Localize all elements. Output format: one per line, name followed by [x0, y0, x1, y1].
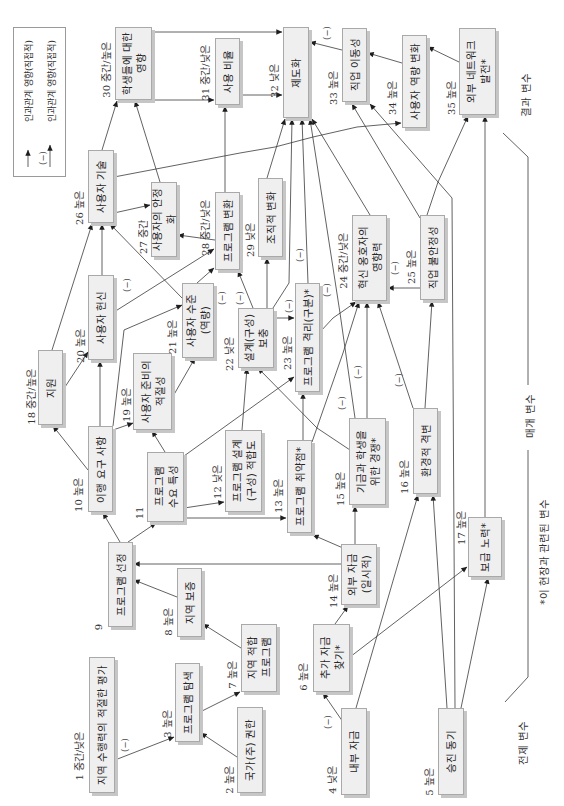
- variable-22: 설계(구성) 보충: [238, 308, 274, 368]
- variable-34-text: 사용자 역량 변화: [408, 43, 422, 120]
- mediating-precondition-bracket: [505, 450, 528, 702]
- variable-28-label: 28 중간/낮은: [197, 200, 212, 255]
- variable-11-label: 11: [134, 507, 145, 520]
- edge-26-to-30: [102, 101, 117, 150]
- variable-8: 지역 보증: [177, 568, 202, 637]
- negative-sign-25-24: (−): [390, 261, 400, 275]
- variable-18-label: 18 중간/높은: [23, 369, 38, 424]
- variable-5: 승진 동기: [438, 708, 464, 795]
- variable-20-label: 20 높은: [72, 329, 87, 363]
- variable-10: 이행 요구 사항: [88, 426, 113, 512]
- variable-14-text: 외부 자금 (일시적): [345, 553, 373, 596]
- variable-12-text: 프로그램 설계 (구성) 적합도: [230, 439, 258, 502]
- edge-19-to-21: [172, 358, 195, 398]
- variable-22-text: 설계(구성) 보충: [242, 314, 270, 362]
- variable-25-text: 직업 불안정성: [426, 226, 440, 289]
- variable-32-text: 제도화: [289, 58, 303, 88]
- variable-4-label: 4 낮은: [324, 766, 339, 794]
- variable-6-text: 추가 자금 찾기*: [318, 636, 346, 679]
- variable-21: 사용자 수준 (역량): [182, 283, 214, 358]
- edge-2-to-3: [201, 733, 237, 757]
- variable-13-text: 프로그램 취약점*: [293, 447, 307, 526]
- edge-11-to-19: [152, 431, 165, 452]
- variable-3: 프로그램 탐색: [175, 663, 200, 742]
- edge-10-to-18: [53, 426, 88, 470]
- variable-33: 직업 이동성: [342, 28, 367, 102]
- outcome-mediating-bracket: [503, 133, 528, 385]
- edge-11-to-12: [184, 502, 224, 508]
- variable-22-label: 22 낮은: [221, 337, 236, 371]
- variable-8-text: 지역 보증: [183, 581, 197, 624]
- edge-16-to-24-negative: [378, 302, 413, 408]
- negative-sign-33-32: (−): [322, 26, 332, 40]
- variable-19-label: 19 높은: [118, 388, 133, 422]
- variable-23: 프로그램 격리(구분)*: [295, 283, 320, 392]
- footnote-site-variables: *이 현장과 관련된 변수: [536, 499, 551, 604]
- variable-31-text: 사용 비율: [221, 50, 235, 93]
- variable-1: 지역 수행력의 적절한 평가: [89, 657, 115, 793]
- variable-7: 지역 적합 프로그램: [241, 624, 277, 692]
- variable-19: 사용자 준비의 적절성: [133, 353, 172, 430]
- group-label-mediating: 매개 변수: [522, 394, 537, 437]
- edge-26-to-27: [114, 205, 150, 213]
- variable-15: 기금과 학생을 위한 경쟁*: [349, 418, 386, 505]
- group-label-precondition: 전제 변수: [515, 721, 530, 764]
- legend-item-negative-text: 인과관계 영향(직접적): [45, 40, 58, 122]
- variable-29-label: 29 낮은: [242, 223, 257, 257]
- variable-27: 사용자의 안정화: [151, 182, 177, 257]
- variable-25-label: 25 높은: [403, 250, 418, 284]
- variable-21-label: 21 높은: [164, 320, 179, 354]
- variable-20-text: 사용자 헌신: [94, 291, 108, 344]
- variable-2-label: 2 높은: [221, 766, 236, 794]
- negative-sign-21-28: (−): [217, 291, 227, 305]
- variable-20: 사용자 헌신: [88, 275, 114, 360]
- variable-9-text: 프로그램 선정: [114, 553, 128, 616]
- edge-9-to-10: [103, 513, 120, 542]
- variable-26-text: 사용자 기술: [94, 160, 108, 213]
- variable-29: 조직적 변화: [258, 178, 283, 257]
- edge-5-to-17: [461, 578, 488, 708]
- variable-27-label: 27 중간: [135, 220, 150, 254]
- variable-21-text: 사용자 수준 (역량): [184, 294, 212, 347]
- variable-32: 제도화: [283, 27, 309, 118]
- variable-35-label: 35 높은: [443, 81, 458, 115]
- edge-7-to-8: [203, 624, 241, 648]
- variable-13: 프로그램 취약점*: [287, 440, 312, 533]
- edge-25-to-35: [427, 116, 468, 215]
- variable-31: 사용 비율: [215, 38, 240, 105]
- variable-31-label: 31 중간/낮은: [197, 45, 212, 100]
- variable-8-label: 8 높은: [160, 608, 175, 636]
- edge-3-to-7: [200, 692, 240, 712]
- variable-2: 국가(주) 권한: [237, 707, 263, 793]
- variable-24: 혁신 옹호자의 영향력: [352, 215, 387, 301]
- variable-3-text: 프로그램 탐색: [181, 671, 195, 734]
- negative-sign-22-32: (−): [295, 248, 305, 262]
- variable-9: 프로그램 선정: [108, 542, 133, 627]
- variable-28: 프로그램 변환: [215, 192, 240, 270]
- variable-34: 사용자 역량 변화: [402, 35, 427, 128]
- variable-32-label: 32 낮은: [266, 64, 281, 98]
- edge-8-to-9: [134, 580, 177, 597]
- edge-27-to-30: [135, 101, 160, 182]
- legend-item-direct-text: 인과관계 영향(직접적): [22, 40, 35, 122]
- edge-26-to-34: [114, 123, 401, 177]
- edge-29-to-32: [267, 119, 285, 178]
- negative-sign-22-23: (−): [284, 299, 294, 313]
- variable-17-text: 보급 노력*: [478, 523, 492, 572]
- variable-14-label: 14 높은: [325, 574, 340, 608]
- variable-12: 프로그램 설계 (구성) 적합도: [225, 430, 262, 512]
- negative-sign-22-28: (−): [235, 291, 245, 305]
- variable-28-text: 프로그램 변환: [221, 199, 235, 262]
- variable-17-label: 17 높은: [453, 511, 468, 545]
- variable-6-label: 6 높은: [295, 663, 310, 691]
- variable-35: 외부 네트워크 발전*: [459, 28, 496, 115]
- edge-10-to-19: [113, 423, 133, 430]
- variable-23-text: 프로그램 격리(구분)*: [301, 289, 315, 386]
- variable-16-label: 16 높은: [396, 460, 411, 494]
- group-label-outcome: 결과 변수: [518, 73, 533, 116]
- negative-sign-13-24: (−): [353, 365, 363, 379]
- causal-network-diagram: 인과관계 영향(직접적) 인과관계 영향(직접적) (−): [0, 0, 564, 806]
- variable-33-text: 직업 이동성: [348, 38, 362, 91]
- variable-12-label: 12 낮은: [209, 465, 224, 499]
- negative-sign-15-32: (−): [322, 283, 332, 297]
